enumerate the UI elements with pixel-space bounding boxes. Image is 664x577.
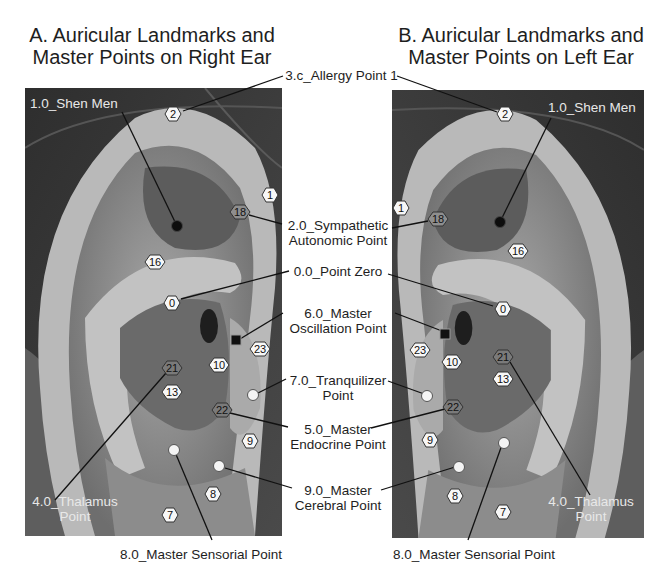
title-a-line1: A. Auricular Landmarks and: [22, 24, 282, 46]
label-cerebral: 9.0_Master Cerebral Point: [282, 483, 394, 513]
label-cerebral-line2: Cerebral Point: [282, 498, 394, 513]
label-thalamus-right-line1: 4.0_Thalamus: [30, 494, 120, 509]
label-endocrine-line1: 5.0_Master: [282, 422, 394, 437]
label-sympathetic: 2.0_Sympathetic Autonomic Point: [282, 218, 394, 248]
label-thalamus-right-line2: Point: [30, 509, 120, 524]
label-thalamus-left: 4.0_Thalamus Point: [545, 494, 637, 524]
title-panel-b: B. Auricular Landmarks and Master Points…: [390, 24, 652, 68]
label-sympathetic-line2: Autonomic Point: [282, 233, 394, 248]
title-panel-a: A. Auricular Landmarks and Master Points…: [22, 24, 282, 68]
label-shen-men-right: 1.0_Shen Men: [30, 96, 118, 111]
label-oscillation-line2: Oscillation Point: [282, 321, 394, 336]
label-thalamus-right: 4.0_Thalamus Point: [30, 494, 120, 524]
title-b-line1: B. Auricular Landmarks and: [390, 24, 652, 46]
ear-image-left: [392, 90, 644, 538]
label-cerebral-line1: 9.0_Master: [282, 483, 394, 498]
ear-image-right: [25, 88, 282, 536]
label-tranquilizer: 7.0_Tranquilizer Point: [282, 373, 394, 403]
label-allergy-point: 3.c_Allergy Point 1: [284, 68, 399, 83]
label-tranquilizer-line2: Point: [282, 388, 394, 403]
label-sensorial-right: 8.0_Master Sensorial Point: [120, 547, 282, 562]
label-sensorial-left: 8.0_Master Sensorial Point: [393, 547, 555, 562]
label-oscillation-line1: 6.0_Master: [282, 306, 394, 321]
label-endocrine: 5.0_Master Endocrine Point: [282, 422, 394, 452]
label-thalamus-left-line1: 4.0_Thalamus: [545, 494, 637, 509]
label-shen-men-left: 1.0_Shen Men: [548, 100, 636, 115]
label-endocrine-line2: Endocrine Point: [282, 437, 394, 452]
label-sympathetic-line1: 2.0_Sympathetic: [282, 218, 394, 233]
left-ear-illustration: [392, 90, 644, 538]
label-oscillation: 6.0_Master Oscillation Point: [282, 306, 394, 336]
label-point-zero: 0.0_Point Zero: [282, 264, 394, 279]
label-tranquilizer-line1: 7.0_Tranquilizer: [282, 373, 394, 388]
title-b-line2: Master Points on Left Ear: [390, 46, 652, 68]
label-thalamus-left-line2: Point: [545, 509, 637, 524]
right-ear-illustration: [25, 88, 282, 536]
title-a-line2: Master Points on Right Ear: [22, 46, 282, 68]
